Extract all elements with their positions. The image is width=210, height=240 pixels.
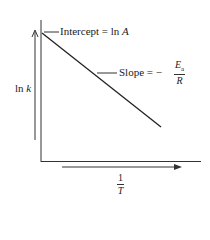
x-numerator: 1 bbox=[117, 173, 124, 185]
intercept-var: A bbox=[122, 25, 129, 37]
ln-k-arrow-icon bbox=[32, 30, 38, 140]
slope-denominator: R bbox=[174, 75, 185, 86]
x-axis-label: 1 T bbox=[117, 173, 124, 196]
inv-t-arrow-icon bbox=[62, 164, 182, 170]
intercept-label: Intercept = ln A bbox=[60, 26, 129, 37]
x-denominator: T bbox=[117, 185, 124, 196]
y-axis-label: ln k bbox=[15, 83, 31, 94]
data-line bbox=[42, 33, 161, 127]
slope-label: Slope = − bbox=[119, 67, 162, 78]
slope-numerator: Ea bbox=[174, 60, 185, 75]
slope-fraction: Ea R bbox=[174, 60, 185, 86]
slope-text: Slope = − bbox=[119, 66, 162, 78]
intercept-text: Intercept = ln bbox=[60, 25, 122, 37]
